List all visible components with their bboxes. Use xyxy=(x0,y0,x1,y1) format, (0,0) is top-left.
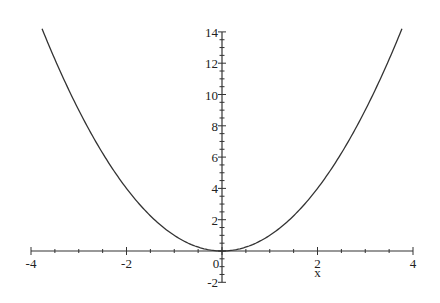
y-tick-label: 8 xyxy=(212,119,219,134)
x-tick-label: -4 xyxy=(26,256,37,271)
y-tick-label: 14 xyxy=(205,25,219,40)
x-axis-label: x xyxy=(314,265,321,280)
axes xyxy=(31,32,413,282)
y-tick-label: -2 xyxy=(207,275,218,290)
y-tick-label: 6 xyxy=(212,150,219,165)
plot-canvas: -4-20241412108642-2x xyxy=(0,0,440,303)
y-tick-label: 2 xyxy=(212,213,219,228)
x-tick-label: -2 xyxy=(121,256,132,271)
y-tick-label: 10 xyxy=(205,88,218,103)
y-tick-label: 4 xyxy=(212,181,219,196)
y-tick-label: 12 xyxy=(205,56,218,71)
x-tick-label: 4 xyxy=(410,256,417,271)
x-tick-label: 0 xyxy=(213,256,220,271)
